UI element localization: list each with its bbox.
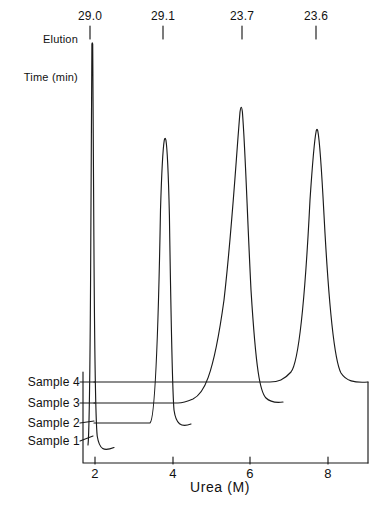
axis-frame [83,372,368,463]
chromatogram-figure: Elution Time (min) 29.0 29.1 23.7 23.6 S… [0,0,387,505]
trace-sample-1 [88,43,114,450]
trace-sample-3 [94,107,283,403]
elution-tick-marks [90,26,316,39]
plot-canvas [0,0,387,505]
sample-leader-lines [80,382,95,441]
trace-sample-4 [94,129,368,382]
